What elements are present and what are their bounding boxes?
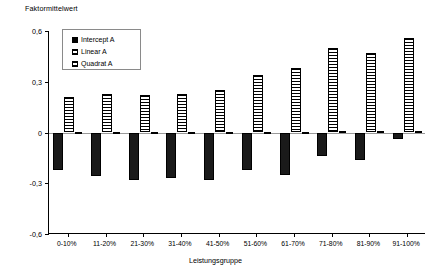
x-axis-tick-label: 41-50% — [206, 240, 229, 247]
bar-linear-a — [102, 94, 112, 133]
bar-quadrat-a — [264, 132, 271, 134]
bar-linear-a — [215, 90, 225, 132]
bar-quadrat-a — [113, 132, 120, 134]
grid-square-icon — [72, 61, 78, 67]
zero-line — [49, 133, 425, 134]
bar-linear-a — [253, 75, 263, 133]
bar-quadrat-a — [302, 132, 309, 134]
x-axis-tick — [407, 233, 408, 237]
bar-intercept-a — [129, 133, 139, 180]
bar-intercept-a — [355, 133, 365, 160]
x-axis-tick-label: 11-20% — [93, 240, 116, 247]
bar-chart: Faktormittelwert 0,60,30-0,3-0,6 0-10%11… — [0, 0, 431, 277]
bar-linear-a — [64, 97, 74, 133]
x-axis-tick — [332, 233, 333, 237]
x-axis-tick-label: 71-80% — [319, 240, 342, 247]
y-axis-tick-label: 0 — [2, 128, 42, 137]
y-axis-tick — [45, 31, 49, 32]
bar-intercept-a — [53, 133, 63, 170]
x-axis-tick — [219, 233, 220, 237]
legend-item-label: Quadrat A — [81, 60, 113, 67]
x-axis-tick-label: 91-100% — [393, 240, 420, 247]
y-axis-tick-label: -0,6 — [2, 230, 42, 239]
bar-linear-a — [366, 53, 376, 133]
x-axis-tick — [68, 233, 69, 237]
bar-quadrat-a — [415, 131, 422, 133]
bar-quadrat-a — [339, 131, 346, 133]
x-axis-tick — [294, 233, 295, 237]
y-axis-tick — [45, 234, 49, 235]
x-axis-tick-label: 81-90% — [357, 240, 380, 247]
x-axis-tick — [106, 233, 107, 237]
bar-quadrat-a — [75, 132, 82, 134]
hlines-square-icon — [72, 49, 78, 55]
bar-linear-a — [140, 95, 150, 132]
bar-intercept-a — [166, 133, 176, 179]
bar-linear-a — [177, 94, 187, 133]
y-axis-tick-label: 0,6 — [2, 27, 42, 36]
y-axis-tick — [45, 183, 49, 184]
bar-intercept-a — [393, 133, 403, 140]
x-axis-tick — [181, 233, 182, 237]
solid-square-icon — [72, 37, 78, 43]
x-axis-tick-label: 51-60% — [244, 240, 267, 247]
bar-intercept-a — [91, 133, 101, 177]
bar-intercept-a — [242, 133, 252, 170]
x-axis-tick — [256, 233, 257, 237]
bar-intercept-a — [204, 133, 214, 180]
y-axis-tick — [45, 133, 49, 134]
y-axis-tick — [45, 82, 49, 83]
y-axis-tick-label: -0,3 — [2, 179, 42, 188]
bar-quadrat-a — [151, 132, 158, 134]
x-axis-tick-label: 21-30% — [131, 240, 154, 247]
legend-item: Quadrat A — [72, 58, 140, 69]
bar-linear-a — [328, 48, 338, 133]
bar-quadrat-a — [377, 131, 384, 133]
x-axis-tick-label: 0-10% — [57, 240, 77, 247]
bar-intercept-a — [280, 133, 290, 175]
legend-item: Linear A — [72, 46, 140, 57]
legend-item-label: Intercept A — [81, 36, 114, 43]
bar-linear-a — [291, 68, 301, 132]
y-axis-title: Faktormittelwert — [25, 4, 78, 13]
legend-item-label: Linear A — [81, 48, 107, 55]
chart-legend: Intercept A Linear A Quadrat A — [62, 29, 141, 70]
legend-item: Intercept A — [72, 34, 140, 45]
bar-quadrat-a — [188, 132, 195, 134]
x-axis-tick-label: 61-70% — [281, 240, 304, 247]
x-axis-tick — [369, 233, 370, 237]
bar-quadrat-a — [226, 132, 233, 134]
y-axis-tick-label: 0,3 — [2, 77, 42, 86]
x-axis-tick-label: 31-40% — [168, 240, 191, 247]
bar-linear-a — [404, 38, 414, 133]
x-axis-tick — [143, 233, 144, 237]
x-axis-title: Leistungsgruppe — [0, 256, 431, 265]
bar-intercept-a — [317, 133, 327, 157]
